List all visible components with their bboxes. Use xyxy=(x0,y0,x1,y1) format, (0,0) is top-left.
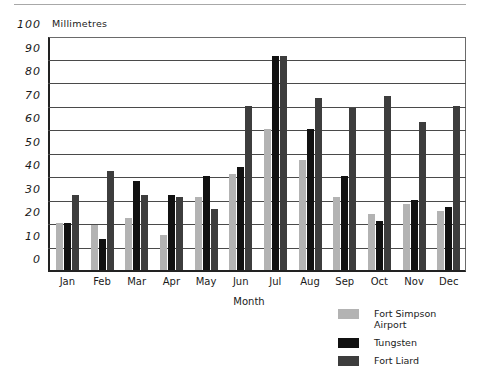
top-divider-rule xyxy=(14,4,466,5)
bar-group xyxy=(397,37,432,270)
legend-swatch xyxy=(338,338,359,348)
y-axis-tick-label: 100 xyxy=(17,18,41,31)
bar-group xyxy=(258,37,293,270)
legend-swatch xyxy=(338,309,359,319)
bar xyxy=(203,176,210,270)
bar-group xyxy=(154,37,189,270)
legend-label: Fort Simpson Airport xyxy=(374,308,436,330)
bar xyxy=(107,171,114,270)
y-axis-tick-label: 20 xyxy=(25,206,41,219)
bar xyxy=(315,98,322,270)
x-axis-tick-label: Jul xyxy=(258,276,293,287)
bar xyxy=(141,195,148,270)
bar-group xyxy=(293,37,328,270)
bar-group xyxy=(431,37,466,270)
y-axis-tick-label: 0 xyxy=(33,253,41,266)
y-axis-tick-label: 90 xyxy=(25,41,41,54)
bar-group xyxy=(119,37,154,270)
x-axis-tick-label: Feb xyxy=(85,276,120,287)
bar xyxy=(299,160,306,270)
bar xyxy=(133,181,140,270)
bar xyxy=(349,108,356,270)
bar xyxy=(229,174,236,270)
bar xyxy=(445,207,452,270)
bars-layer xyxy=(50,37,466,270)
chart-plot-area: 0102030405060708090100 xyxy=(48,37,466,272)
y-axis-tick-label: 80 xyxy=(25,65,41,78)
bar xyxy=(160,235,167,270)
bar xyxy=(403,204,410,270)
bar-group xyxy=(50,37,85,270)
x-axis-tick-label: Sep xyxy=(327,276,362,287)
bar xyxy=(237,167,244,270)
bar xyxy=(91,225,98,270)
bar-group xyxy=(189,37,224,270)
x-axis-tick-label: Dec xyxy=(431,276,466,287)
bar xyxy=(411,200,418,271)
bar xyxy=(125,218,132,270)
y-axis-tick-label: 50 xyxy=(25,135,41,148)
bar xyxy=(56,223,63,270)
bar xyxy=(264,129,271,270)
x-axis-tick-label: Jun xyxy=(223,276,258,287)
legend-item: Tungsten xyxy=(338,337,474,348)
legend-item: Fort Liard xyxy=(338,355,474,366)
bar xyxy=(384,96,391,270)
x-axis-tick-label: Nov xyxy=(397,276,432,287)
legend-label: Tungsten xyxy=(374,337,417,348)
legend-swatch xyxy=(338,356,359,366)
bar xyxy=(376,221,383,270)
y-axis-tick-label: 30 xyxy=(25,182,41,195)
bar xyxy=(211,209,218,270)
bar xyxy=(368,214,375,270)
x-axis-tick-label: Mar xyxy=(119,276,154,287)
bar xyxy=(195,197,202,270)
legend-item: Fort Simpson Airport xyxy=(338,308,474,330)
x-axis-tick-label: Oct xyxy=(362,276,397,287)
bar-group xyxy=(223,37,258,270)
y-axis-title: Millimetres xyxy=(52,18,107,29)
bar xyxy=(419,122,426,270)
bar xyxy=(176,197,183,270)
chart-legend: Fort Simpson AirportTungstenFort Liard xyxy=(338,308,474,373)
x-axis-tick-label: May xyxy=(189,276,224,287)
bar xyxy=(168,195,175,270)
bar-group xyxy=(85,37,120,270)
bar-group xyxy=(362,37,397,270)
x-axis-title: Month xyxy=(0,296,478,307)
bar xyxy=(99,239,106,270)
x-axis-tick-label: Jan xyxy=(50,276,85,287)
bar xyxy=(245,106,252,271)
bar xyxy=(272,56,279,270)
bar xyxy=(341,176,348,270)
x-axis-tick-label: Aug xyxy=(293,276,328,287)
y-axis-tick-label: 70 xyxy=(25,88,41,101)
bar xyxy=(72,195,79,270)
bar xyxy=(437,211,444,270)
bar xyxy=(307,129,314,270)
bar-group xyxy=(327,37,362,270)
bar xyxy=(280,56,287,270)
y-axis-tick-label: 10 xyxy=(25,229,41,242)
bar xyxy=(64,223,71,270)
bar xyxy=(333,197,340,270)
y-axis-tick-label: 60 xyxy=(25,112,41,125)
x-axis-ticks-group: JanFebMarAprMayJunJulAugSepOctNovDec xyxy=(50,276,466,287)
legend-label: Fort Liard xyxy=(374,355,419,366)
y-axis-tick-label: 40 xyxy=(25,159,41,172)
bar xyxy=(453,106,460,271)
x-axis-tick-label: Apr xyxy=(154,276,189,287)
